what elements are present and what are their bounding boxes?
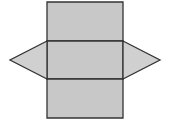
middle-rectangle xyxy=(47,41,123,79)
prism-net-diagram xyxy=(0,0,169,120)
top-rectangle xyxy=(47,2,123,41)
right-triangle xyxy=(123,41,160,79)
bottom-rectangle xyxy=(47,79,123,118)
left-triangle xyxy=(10,41,47,79)
